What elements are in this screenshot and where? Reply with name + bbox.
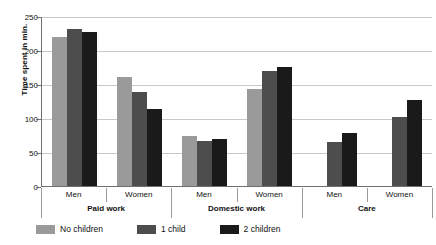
bar[interactable] bbox=[132, 92, 147, 187]
bar[interactable] bbox=[342, 133, 357, 187]
y-tick-label-250: 250 bbox=[12, 13, 38, 22]
y-tick-label-0: 0 bbox=[12, 183, 38, 192]
legend-label: 1 child bbox=[161, 224, 186, 234]
y-tick-label-100: 100 bbox=[12, 115, 38, 124]
activity-label: Domestic work bbox=[171, 204, 301, 213]
bar[interactable] bbox=[82, 32, 97, 187]
y-axis: Time spent in min. 050100150200250 bbox=[0, 0, 38, 195]
category-separator bbox=[106, 188, 107, 202]
y-tick-label-200: 200 bbox=[12, 47, 38, 56]
bar[interactable] bbox=[247, 89, 262, 187]
legend-swatch bbox=[137, 225, 156, 234]
bar[interactable] bbox=[67, 29, 82, 187]
legend-label: No children bbox=[60, 224, 103, 234]
category-separator bbox=[367, 188, 368, 202]
bar[interactable] bbox=[392, 117, 407, 187]
category-separator bbox=[237, 188, 238, 202]
bar[interactable] bbox=[182, 136, 197, 187]
bar[interactable] bbox=[52, 37, 67, 187]
chart-legend: No children1 child2 children bbox=[36, 224, 314, 234]
category-label: Men bbox=[302, 190, 367, 199]
legend-item[interactable]: 1 child bbox=[137, 224, 186, 234]
category-separator bbox=[171, 188, 172, 218]
bar-group bbox=[302, 17, 367, 187]
y-tick-label-50: 50 bbox=[12, 149, 38, 158]
legend-swatch bbox=[220, 225, 239, 234]
bar-groups bbox=[42, 17, 432, 187]
activity-label: Paid work bbox=[41, 204, 171, 213]
category-label: Men bbox=[41, 190, 106, 199]
x-axis-line bbox=[42, 186, 432, 187]
plot-area bbox=[41, 17, 432, 187]
category-label: Men bbox=[171, 190, 236, 199]
bar-group bbox=[107, 17, 172, 187]
category-labels: MenWomenMenWomenMenWomen Paid workDomest… bbox=[41, 188, 432, 222]
category-separator bbox=[432, 188, 433, 218]
bar-group bbox=[237, 17, 302, 187]
bar[interactable] bbox=[327, 142, 342, 187]
bar[interactable] bbox=[197, 141, 212, 187]
activity-label: Care bbox=[302, 204, 432, 213]
bar[interactable] bbox=[277, 67, 292, 187]
category-separator bbox=[41, 188, 42, 218]
category-label: Women bbox=[237, 190, 302, 199]
y-tick-label-150: 150 bbox=[12, 81, 38, 90]
legend-item[interactable]: No children bbox=[36, 224, 103, 234]
bar[interactable] bbox=[407, 100, 422, 187]
bar-group bbox=[172, 17, 237, 187]
bar[interactable] bbox=[147, 109, 162, 187]
legend-item[interactable]: 2 children bbox=[220, 224, 281, 234]
bar[interactable] bbox=[262, 71, 277, 187]
category-label: Women bbox=[367, 190, 432, 199]
legend-label: 2 children bbox=[244, 224, 281, 234]
category-separator bbox=[302, 188, 303, 218]
bar-group bbox=[42, 17, 107, 187]
bar-chart: Time spent in min. 050100150200250 MenWo… bbox=[0, 0, 436, 245]
bar[interactable] bbox=[117, 77, 132, 187]
bar-group bbox=[367, 17, 432, 187]
activity-label-row: Paid workDomestic workCare bbox=[41, 204, 432, 213]
legend-swatch bbox=[36, 225, 55, 234]
bar[interactable] bbox=[212, 139, 227, 187]
category-label: Women bbox=[106, 190, 171, 199]
